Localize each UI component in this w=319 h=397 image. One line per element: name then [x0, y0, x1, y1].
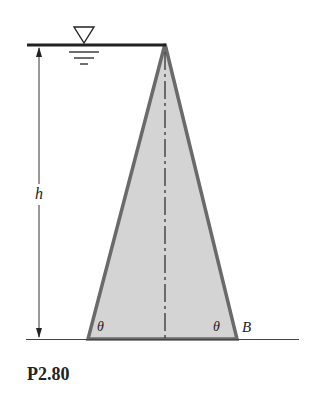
angle-right-label: θ — [213, 319, 220, 334]
angle-left-label: θ — [97, 319, 104, 334]
dam-diagram: h θ θ B P2.80 — [0, 0, 319, 397]
triangular-dam — [88, 44, 237, 339]
figure-caption: P2.80 — [27, 364, 70, 384]
point-b-label: B — [242, 319, 251, 335]
height-label: h — [35, 185, 43, 202]
